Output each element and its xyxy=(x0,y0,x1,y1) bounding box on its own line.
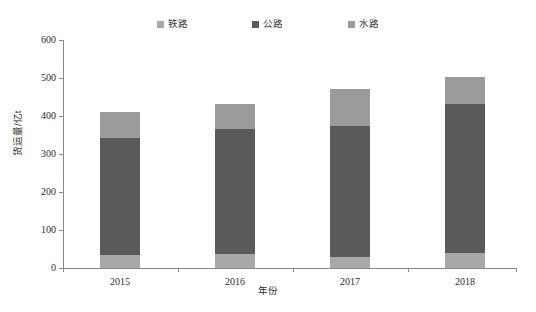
bar-segment-水路[interactable] xyxy=(215,104,255,129)
y-axis-title: 货运量/亿t xyxy=(13,111,23,156)
bar-segment-水路[interactable] xyxy=(100,112,140,137)
y-tick-label: 600 xyxy=(41,35,56,45)
bar-segment-水路[interactable] xyxy=(445,77,485,104)
bar-segment-铁路[interactable] xyxy=(445,253,485,268)
x-tick-mark xyxy=(408,268,409,272)
x-tick-mark xyxy=(178,268,179,272)
legend-item-waterway[interactable]: 水路 xyxy=(348,19,380,29)
bar-segment-公路[interactable] xyxy=(100,138,140,256)
y-tick-label: 400 xyxy=(41,111,56,121)
y-axis-line xyxy=(63,40,64,269)
figure-caption xyxy=(0,303,536,312)
bar-segment-铁路[interactable] xyxy=(100,255,140,268)
bar-segment-公路[interactable] xyxy=(215,129,255,254)
x-tick-mark xyxy=(63,268,64,272)
x-tick-mark xyxy=(293,268,294,272)
y-tick-mark xyxy=(59,154,63,155)
y-tick-mark xyxy=(59,40,63,41)
bar-2015[interactable] xyxy=(100,112,140,268)
bar-2017[interactable] xyxy=(330,89,370,268)
y-tick-label: 0 xyxy=(51,263,56,273)
square-swatch-icon xyxy=(252,21,259,28)
legend-item-railway[interactable]: 铁路 xyxy=(157,19,189,29)
y-tick-mark xyxy=(59,78,63,79)
y-tick-label: 500 xyxy=(41,73,56,83)
plot-area: 0100200300400500600 2015201620172018 xyxy=(63,40,516,268)
bar-segment-公路[interactable] xyxy=(445,104,485,253)
y-tick-label: 100 xyxy=(41,225,56,235)
legend-label-waterway: 水路 xyxy=(359,19,380,29)
bar-segment-铁路[interactable] xyxy=(215,254,255,268)
stacked-bar-chart: 铁路 公路 水路 货运量/亿t 0100200300400500600 2015… xyxy=(0,0,536,312)
bar-segment-铁路[interactable] xyxy=(330,257,370,268)
chart-legend: 铁路 公路 水路 xyxy=(0,19,536,29)
x-axis-line xyxy=(63,268,516,269)
y-tick-label: 300 xyxy=(41,149,56,159)
legend-item-highway[interactable]: 公路 xyxy=(252,19,284,29)
x-tick-mark xyxy=(516,268,517,272)
square-swatch-icon xyxy=(348,21,355,28)
x-axis-title: 年份 xyxy=(0,286,536,296)
bar-segment-水路[interactable] xyxy=(330,89,370,126)
y-tick-mark xyxy=(59,192,63,193)
y-tick-mark xyxy=(59,230,63,231)
y-tick-label: 200 xyxy=(41,187,56,197)
y-tick-mark xyxy=(59,116,63,117)
bar-2016[interactable] xyxy=(215,104,255,268)
legend-label-highway: 公路 xyxy=(263,19,284,29)
bar-2018[interactable] xyxy=(445,77,485,268)
bar-segment-公路[interactable] xyxy=(330,126,370,257)
legend-label-railway: 铁路 xyxy=(168,19,189,29)
square-swatch-icon xyxy=(157,21,164,28)
